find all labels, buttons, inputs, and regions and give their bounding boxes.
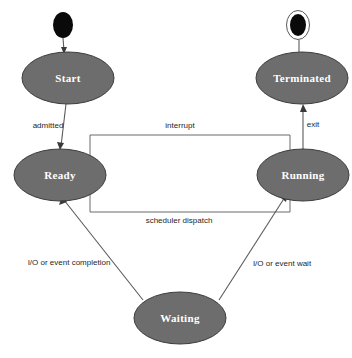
state-label-ready: Ready [44, 169, 76, 181]
state-node-ready[interactable]: Ready [14, 149, 106, 201]
transition-running-to-terminated: exit [300, 104, 320, 149]
state-label-start: Start [55, 72, 80, 84]
initial-state-dot [53, 12, 73, 38]
state-label-waiting: Waiting [160, 312, 200, 324]
state-label-terminated: Terminated [273, 72, 331, 84]
state-node-terminated[interactable]: Terminated [256, 52, 348, 104]
edge-label-exit: exit [307, 120, 320, 129]
transition-running-to-waiting: I/O or event wait [219, 193, 312, 300]
state-node-running[interactable]: Running [257, 149, 349, 201]
transition-start-to-ready: admitted [33, 104, 66, 150]
final-state-node [287, 11, 310, 40]
edge-label-interrupt: interrupt [165, 121, 195, 130]
initial-state-node [53, 12, 73, 38]
state-node-waiting[interactable]: Waiting [134, 292, 226, 344]
edge-label-admitted: admitted [33, 121, 64, 130]
edge-label-scheduler-dispatch: scheduler dispatch [146, 216, 213, 225]
process-state-diagram: admitted interrupt scheduler dispatch ex… [0, 0, 352, 358]
state-diagram-canvas: admitted interrupt scheduler dispatch ex… [0, 0, 352, 358]
final-state-dot [290, 14, 306, 36]
state-label-running: Running [281, 169, 324, 181]
edge-line-waiting-to-ready [64, 200, 143, 300]
arrowhead-running-to-terminated [300, 104, 307, 112]
edge-label-io-or-event-wait: I/O or event wait [253, 259, 312, 268]
edge-label-io-or-event-completion: I/O or event completion [28, 258, 111, 267]
state-node-start[interactable]: Start [22, 52, 114, 104]
